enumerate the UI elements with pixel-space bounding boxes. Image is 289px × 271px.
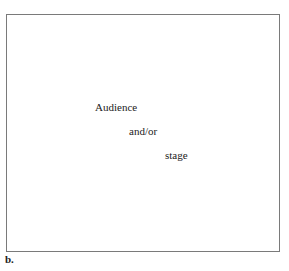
label-and-or: and/or [129, 125, 157, 138]
label-audience: Audience [95, 101, 137, 114]
label-stage: stage [165, 149, 188, 162]
panel-label: b. [5, 253, 14, 266]
